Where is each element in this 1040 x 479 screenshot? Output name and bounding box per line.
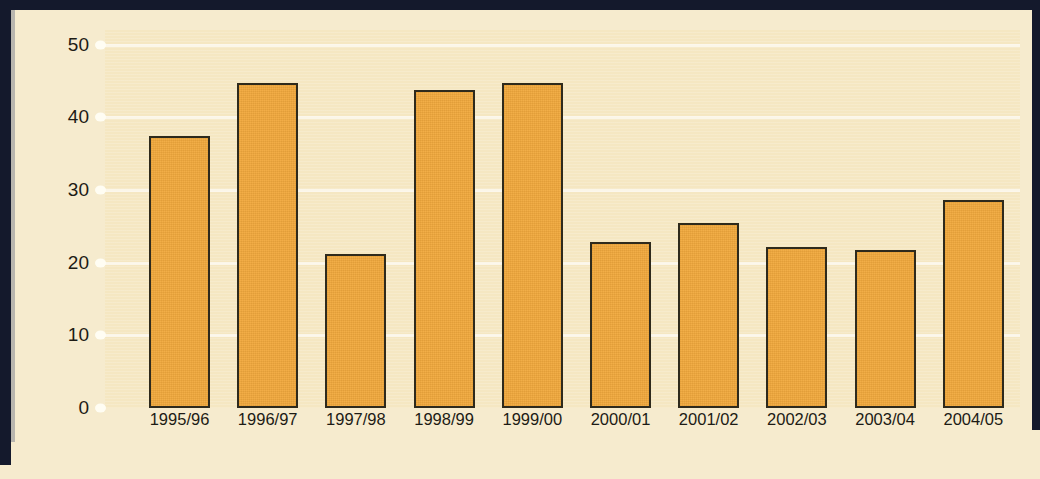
bar	[502, 83, 563, 408]
y-axis-tick-marker	[95, 40, 106, 49]
bar	[414, 90, 475, 408]
bar	[149, 136, 210, 408]
frame-left-edge	[0, 0, 11, 465]
plot-area: 01020304050	[105, 30, 1020, 408]
bar	[325, 254, 386, 408]
y-axis-tick-marker	[95, 258, 106, 267]
y-axis-tick-label: 0	[78, 397, 89, 419]
gridline	[105, 44, 1020, 47]
frame-inner-left-edge	[11, 10, 15, 442]
frame-top-edge	[0, 0, 1040, 10]
y-axis-tick-label: 30	[68, 179, 89, 201]
bar	[590, 242, 651, 408]
y-axis-tick-label: 20	[68, 252, 89, 274]
y-axis-tick-marker	[95, 331, 106, 340]
y-axis-tick-label: 10	[68, 324, 89, 346]
frame-right-edge	[1032, 0, 1040, 430]
y-axis-tick-label: 50	[68, 34, 89, 56]
source-band: Source: ONS mortality data; England and …	[15, 442, 1040, 479]
y-axis-tick-marker	[95, 185, 106, 194]
y-axis-tick-marker	[95, 113, 106, 122]
figure: Excess winter deaths amongst over-65s (t…	[0, 0, 1040, 479]
bar	[855, 250, 916, 408]
y-axis-tick-label: 40	[68, 106, 89, 128]
bar	[766, 247, 827, 408]
x-axis-ticks: 1995/961996/971997/981998/991999/002000/…	[105, 410, 1020, 436]
bar	[943, 200, 1004, 408]
bar	[237, 83, 298, 408]
x-axis-tick-label: 2004/05	[918, 410, 1028, 429]
bar	[678, 223, 739, 408]
